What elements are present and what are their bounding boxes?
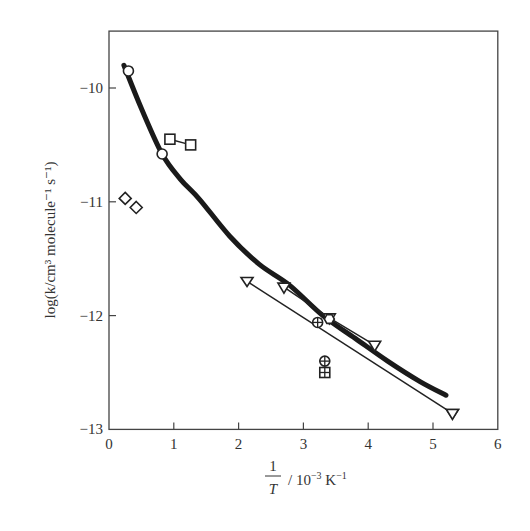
x-label-numerator: 1 — [269, 458, 277, 474]
x-tick-label: 1 — [170, 436, 178, 452]
y-axis-label: log(k/cm³ molecule⁻¹ s⁻¹) — [42, 162, 59, 319]
up-triangles-line-line — [247, 281, 452, 413]
marker-triangle-down — [446, 409, 458, 419]
marker-square — [186, 140, 196, 150]
marker-diamond — [119, 192, 131, 204]
marker-hexagon — [324, 315, 334, 324]
x-label-denominator: T — [269, 481, 279, 497]
marker-square — [165, 134, 175, 144]
marker-square-plus — [320, 368, 330, 378]
y-axis-title: log(k/cm³ molecule⁻¹ s⁻¹) — [42, 162, 59, 319]
marker-circle-plus — [313, 317, 323, 327]
x-tick-label: 6 — [494, 436, 502, 452]
y-tick-label: −12 — [80, 308, 103, 324]
y-tick-label: −13 — [80, 421, 103, 437]
marker-circle-plus — [320, 356, 330, 366]
axis-ticks: 0123456−10−11−12−13 — [80, 80, 503, 452]
x-tick-label: 3 — [300, 436, 308, 452]
x-tick-label: 5 — [429, 436, 437, 452]
x-tick-label: 4 — [364, 436, 372, 452]
marker-triangle-left — [241, 277, 253, 286]
marker-circle — [157, 149, 167, 159]
chart-figure: 0123456−10−11−12−13 log(k/cm³ molecule⁻¹… — [0, 0, 530, 531]
marker-triangle-down — [278, 283, 290, 293]
y-tick-label: −11 — [80, 194, 103, 210]
x-tick-label: 2 — [235, 436, 243, 452]
marker-circle — [123, 66, 133, 76]
x-label-unit: / 10−3 K−1 — [288, 470, 347, 488]
x-tick-label: 0 — [105, 436, 113, 452]
axes-box — [109, 31, 498, 429]
fit-curve — [124, 65, 446, 395]
plot-area — [119, 65, 458, 419]
y-tick-label: −10 — [80, 80, 103, 96]
x-axis-label: 1 T / 10−3 K−1 — [265, 458, 347, 497]
plot-frame — [109, 31, 498, 429]
marker-diamond — [130, 201, 142, 213]
